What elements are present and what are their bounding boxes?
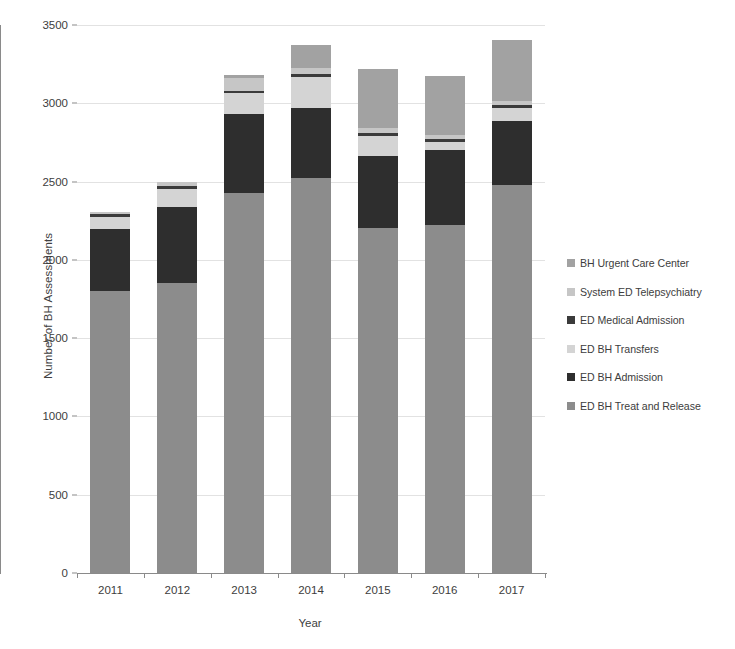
bar-2012[interactable] — [157, 182, 197, 573]
bar-segment — [492, 121, 532, 185]
bar-2013[interactable] — [224, 75, 264, 573]
x-axis-tick-label: 2017 — [499, 584, 525, 596]
x-axis-tick-label: 2015 — [365, 584, 391, 596]
x-axis-tick-mark — [211, 573, 212, 578]
x-axis-tick-mark — [545, 573, 546, 578]
legend-item[interactable]: ED Medical Admission — [567, 313, 732, 327]
bar-segment — [358, 228, 398, 573]
bar-segment — [358, 136, 398, 156]
legend-item-label: ED BH Admission — [580, 371, 663, 383]
legend-item-label: ED BH Transfers — [580, 343, 659, 355]
legend-item-label: ED BH Treat and Release — [580, 400, 701, 412]
x-axis-tick-mark — [344, 573, 345, 578]
chart-legend: BH Urgent Care CenterSystem ED Telepsych… — [567, 256, 732, 427]
legend-swatch-icon — [567, 402, 575, 410]
legend-item[interactable]: ED BH Transfers — [567, 342, 732, 356]
bar-segment — [425, 76, 465, 135]
legend-swatch-icon — [567, 373, 575, 381]
stacked-bar-chart: Number of BH Assessments Year 0500100015… — [0, 0, 735, 649]
bar-segment — [157, 189, 197, 208]
bar-segment — [90, 229, 130, 292]
gridline — [77, 25, 545, 26]
bar-segment — [358, 156, 398, 228]
bar-segment — [291, 108, 331, 178]
bar-segment — [492, 40, 532, 101]
legend-item-label: BH Urgent Care Center — [580, 257, 689, 269]
bar-2011[interactable] — [90, 212, 130, 573]
legend-item[interactable]: System ED Telepsychiatry — [567, 285, 732, 299]
y-axis-tick-mark — [72, 259, 77, 260]
bar-2015[interactable] — [358, 69, 398, 573]
legend-swatch-icon — [567, 259, 575, 267]
y-axis-tick-mark — [72, 103, 77, 104]
bar-segment — [90, 217, 130, 229]
y-axis-tick-mark — [72, 494, 77, 495]
y-axis-tick-mark — [72, 181, 77, 182]
x-axis-tick-label: 2014 — [298, 584, 324, 596]
bar-segment — [425, 142, 465, 151]
bar-segment — [224, 114, 264, 193]
legend-item[interactable]: ED BH Treat and Release — [567, 399, 732, 413]
plot-area: 0500100015002000250030003500 — [77, 25, 545, 573]
bar-2014[interactable] — [291, 45, 331, 573]
x-axis-tick-mark — [411, 573, 412, 578]
bar-segment — [157, 207, 197, 282]
bar-segment — [90, 291, 130, 573]
x-axis-tick-label: 2016 — [432, 584, 458, 596]
y-axis-title: Number of BH Assessments — [42, 196, 54, 416]
legend-swatch-icon — [567, 345, 575, 353]
x-axis-tick-mark — [278, 573, 279, 578]
x-axis-tick-mark — [77, 573, 78, 578]
legend-item-label: ED Medical Admission — [580, 314, 684, 326]
bar-segment — [358, 69, 398, 128]
legend-item[interactable]: ED BH Admission — [567, 370, 732, 384]
bar-segment — [224, 193, 264, 573]
legend-swatch-icon — [567, 288, 575, 296]
x-axis-tick-mark — [478, 573, 479, 578]
x-axis-tick-label: 2012 — [164, 584, 190, 596]
y-axis-tick-mark — [72, 25, 77, 26]
bar-segment — [224, 93, 264, 114]
x-axis-title: Year — [75, 617, 545, 629]
bar-segment — [425, 150, 465, 224]
x-axis-line — [77, 573, 547, 574]
legend-swatch-icon — [567, 316, 575, 324]
y-axis-tick-mark — [72, 338, 77, 339]
x-axis-tick-mark — [144, 573, 145, 578]
bar-2017[interactable] — [492, 40, 532, 573]
bar-segment — [291, 45, 331, 68]
y-axis-tick-mark — [72, 416, 77, 417]
bar-segment — [157, 283, 197, 573]
legend-item[interactable]: BH Urgent Care Center — [567, 256, 732, 270]
bar-segment — [492, 108, 532, 121]
x-axis-tick-label: 2013 — [231, 584, 257, 596]
bar-segment — [291, 178, 331, 573]
x-axis-tick-label: 2011 — [98, 584, 123, 596]
bar-segment — [224, 78, 264, 91]
bar-segment — [425, 225, 465, 573]
bar-2016[interactable] — [425, 76, 465, 573]
legend-item-label: System ED Telepsychiatry — [580, 286, 702, 298]
bar-segment — [291, 77, 331, 108]
y-axis-line — [0, 25, 1, 574]
bar-segment — [492, 185, 532, 573]
